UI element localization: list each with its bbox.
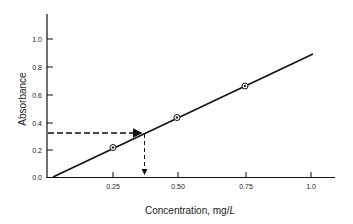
data-point-0.50 — [174, 115, 180, 121]
calibration-chart: 0.0 0.2 0.4 0.6 0.8 1.0 0.25 0.50 0.75 1… — [0, 0, 353, 224]
data-point-0.75 — [242, 83, 248, 89]
svg-text:0.0: 0.0 — [32, 174, 42, 181]
svg-text:0.75: 0.75 — [239, 183, 253, 190]
y-tick-labels: 0.0 0.2 0.4 0.6 0.8 1.0 — [32, 36, 42, 182]
svg-text:0.25: 0.25 — [106, 183, 120, 190]
data-point-0.25 — [110, 145, 116, 151]
y-axis-title: Absorbance — [17, 72, 28, 126]
calibration-line — [53, 54, 313, 177]
svg-text:1.0: 1.0 — [306, 183, 316, 190]
svg-text:0.8: 0.8 — [32, 64, 42, 71]
svg-text:0.6: 0.6 — [32, 92, 42, 99]
svg-text:0.4: 0.4 — [32, 120, 42, 127]
x-ticks — [113, 172, 311, 177]
svg-text:0.2: 0.2 — [32, 147, 42, 154]
svg-text:1.0: 1.0 — [32, 36, 42, 43]
x-axis-title: Concentration, mg/L — [145, 205, 235, 216]
x-tick-labels: 0.25 0.50 0.75 1.0 — [106, 183, 316, 190]
svg-text:0.50: 0.50 — [171, 183, 185, 190]
